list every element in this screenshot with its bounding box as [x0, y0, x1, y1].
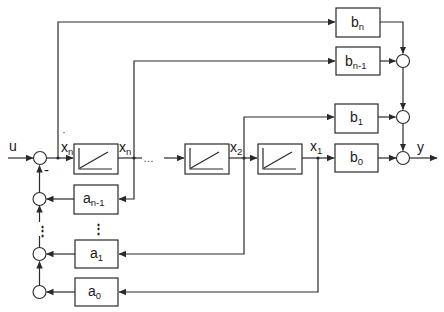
vertical-ellipsis-sums: ⋮: [36, 223, 49, 238]
x1-to-a0-line: [119, 158, 318, 292]
bn-output-line: [380, 22, 403, 54]
summing-junction-a1: [33, 248, 46, 261]
feedforward-paths: [58, 8, 410, 158]
output-label: y: [417, 139, 424, 155]
input-label: u: [9, 138, 17, 154]
summing-junction-b1: [397, 111, 410, 124]
state-x-1-label: x1: [310, 138, 322, 156]
feedback-paths: [33, 158, 318, 306]
output-summing-junction: [397, 152, 410, 165]
horizontal-ellipsis: …: [143, 152, 154, 164]
state-dot-accent: ˙: [63, 130, 67, 144]
block-diagram: u - xn ˙ xn … x2 x1 y bn bn-1 b1 b0 an-1…: [0, 0, 444, 312]
summing-junction-a0: [33, 286, 46, 299]
summing-junction-bn: [397, 55, 410, 68]
feedback-sign: -: [44, 161, 49, 178]
xn-to-an1-line: [119, 158, 134, 199]
vertical-ellipsis-gains: ⋮: [92, 221, 105, 236]
state-x-2-label: x2: [230, 139, 242, 157]
xdot-n-to-bn-line: [58, 22, 335, 158]
state-x-n-label: xn: [119, 139, 131, 157]
summing-junction-an1: [33, 193, 46, 206]
